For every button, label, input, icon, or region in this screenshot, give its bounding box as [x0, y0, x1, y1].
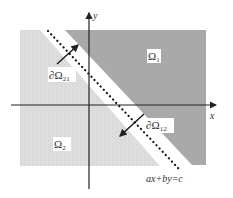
interface-equation-label: ax+by=c: [146, 173, 183, 184]
domain-diagram: x y Ω1 Ω2 ∂Ω21 ∂Ω12 ax+by=c: [0, 0, 233, 198]
x-axis-label: x: [209, 110, 215, 121]
y-axis-label: y: [92, 10, 98, 21]
